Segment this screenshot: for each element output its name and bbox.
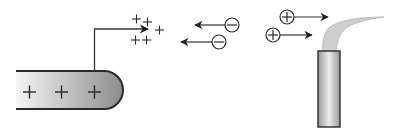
positive-ion-1: [280, 10, 328, 24]
electrode-rod: [16, 71, 123, 109]
negative-ion-2: [181, 35, 226, 49]
ion-flow-diagram: [0, 0, 394, 134]
emitter-tube: [318, 51, 340, 127]
positive-ion-2: [266, 28, 312, 42]
emitter-plume: [323, 17, 384, 52]
diagram-canvas: [0, 0, 394, 134]
negative-ion-1: [195, 18, 239, 32]
conductor-wire: [95, 29, 149, 71]
